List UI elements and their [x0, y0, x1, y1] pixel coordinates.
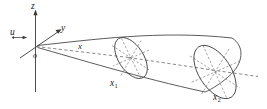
axis-label-u: u — [10, 28, 15, 38]
cross-section-1-label-sub: 1 — [114, 82, 117, 89]
cross-section-1-spokes — [112, 39, 150, 78]
cross-section-1 — [108, 32, 154, 84]
origin-label: o — [33, 52, 37, 60]
cross-section-1-label: x1 — [110, 79, 117, 89]
axis-label-z: z — [31, 2, 35, 12]
axis-label-x: x — [78, 42, 82, 51]
figure-container: z y u o x x1 x2 — [0, 0, 267, 109]
cross-section-2-label-sub: 2 — [217, 96, 220, 103]
diagram-canvas — [0, 0, 267, 109]
axis-label-y: y — [61, 24, 65, 34]
horn-body — [38, 35, 241, 92]
cross-section-2-label: x2 — [213, 93, 220, 103]
